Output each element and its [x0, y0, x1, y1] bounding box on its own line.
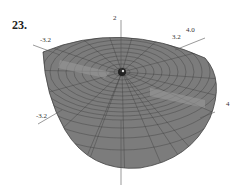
surface-plot: [0, 0, 241, 189]
z-axis-label: 2: [113, 14, 117, 22]
y-axis-label-inner: 3.2: [172, 33, 181, 41]
y-axis-label-outer: 4.0: [186, 26, 195, 34]
x-axis-label-upper: -3.2: [40, 36, 51, 44]
x-axis-label-lower: -3.2: [36, 112, 47, 120]
side-axis-label: 4: [226, 100, 230, 108]
